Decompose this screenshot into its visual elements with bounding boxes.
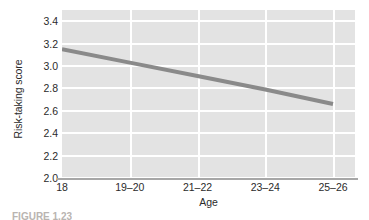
y-tick-label: 3.2 (28, 38, 58, 50)
figure-container: Risk-taking score 3.43.23.02.82.62.42.22… (0, 0, 369, 220)
y-axis-title: Risk-taking score (12, 34, 24, 164)
y-tick-label: 2.2 (28, 150, 58, 162)
x-tick-label: 19–20 (98, 181, 162, 193)
figure-caption: FIGURE 1.23 (12, 211, 72, 220)
x-tick-label: 21–22 (166, 181, 230, 193)
y-tick-label: 2.6 (28, 105, 58, 117)
plot-area (62, 10, 355, 178)
x-axis-line (57, 178, 358, 180)
series-line-layer (62, 10, 355, 178)
x-tick-label: 18 (30, 181, 94, 193)
y-tick-label: 2.8 (28, 82, 58, 94)
y-tick-label: 2.4 (28, 127, 58, 139)
y-tick-label: 3.4 (28, 15, 58, 27)
series-line (62, 49, 333, 104)
x-tick-label: 23–24 (233, 181, 297, 193)
x-axis-title: Age (62, 196, 355, 208)
x-tick-label: 25–26 (301, 181, 365, 193)
y-tick-label: 3.0 (28, 60, 58, 72)
